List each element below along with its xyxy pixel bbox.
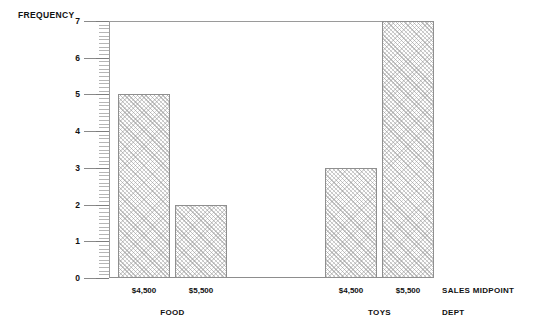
- y-axis-tick-dash: [84, 21, 96, 22]
- y-axis-minor-tick: [99, 39, 109, 40]
- y-axis-minor-tick: [99, 201, 109, 202]
- y-axis-major-tick: [95, 205, 109, 206]
- y-axis-minor-tick: [99, 105, 109, 106]
- y-tick-label: 6: [56, 53, 80, 62]
- y-axis-minor-tick: [99, 43, 109, 44]
- y-axis-minor-tick: [99, 102, 109, 103]
- x-axis-title: SALES MIDPOINT: [442, 287, 514, 295]
- y-axis-minor-tick: [99, 113, 109, 114]
- y-axis-major-tick: [95, 58, 109, 59]
- y-axis-minor-tick: [99, 249, 109, 250]
- y-axis-minor-tick: [99, 153, 109, 154]
- y-axis-minor-tick: [99, 142, 109, 143]
- y-axis-minor-tick: [99, 61, 109, 62]
- y-axis-minor-tick: [99, 186, 109, 187]
- x-tick-label: $5,500: [189, 287, 213, 295]
- y-tick-label: 1: [56, 237, 80, 246]
- y-axis-minor-tick: [99, 120, 109, 121]
- y-axis-minor-tick: [99, 238, 109, 239]
- y-axis-minor-tick: [99, 47, 109, 48]
- y-axis-major-tick: [95, 94, 109, 95]
- y-axis-minor-tick: [99, 194, 109, 195]
- y-axis-minor-tick: [99, 83, 109, 84]
- y-axis-minor-tick: [99, 179, 109, 180]
- y-axis-minor-tick: [99, 98, 109, 99]
- y-axis-minor-tick: [99, 234, 109, 235]
- y-axis-minor-tick: [99, 28, 109, 29]
- bars-layer: [110, 21, 432, 278]
- y-axis-minor-tick: [99, 124, 109, 125]
- y-axis-minor-tick: [99, 80, 109, 81]
- y-axis-minor-tick: [99, 65, 109, 66]
- y-tick-label: 0: [56, 274, 80, 283]
- y-axis-minor-tick: [99, 172, 109, 173]
- y-axis-major-tick: [95, 241, 109, 242]
- y-axis-minor-tick: [99, 146, 109, 147]
- y-axis-minor-tick: [99, 157, 109, 158]
- x-group-label: TOYS: [368, 309, 391, 317]
- y-axis-minor-tick: [99, 50, 109, 51]
- y-tick-label-group: 76543210: [48, 21, 80, 278]
- y-axis-minor-tick: [99, 175, 109, 176]
- y-axis-minor-tick: [99, 223, 109, 224]
- y-axis-minor-tick: [99, 227, 109, 228]
- y-axis-minor-tick: [99, 219, 109, 220]
- x-tick-label: $4,500: [132, 287, 156, 295]
- y-axis-major-tick: [95, 168, 109, 169]
- y-tick-label: 3: [56, 164, 80, 173]
- y-axis-minor-tick: [99, 116, 109, 117]
- y-axis-minor-tick: [99, 127, 109, 128]
- y-axis-minor-tick: [99, 36, 109, 37]
- y-axis-minor-tick: [99, 87, 109, 88]
- y-axis-minor-tick: [99, 109, 109, 110]
- y-axis-minor-tick: [99, 197, 109, 198]
- x-group-label: FOOD: [160, 309, 184, 317]
- y-axis-minor-tick: [99, 135, 109, 136]
- y-axis-major-tick: [95, 21, 109, 22]
- y-axis-minor-tick: [99, 245, 109, 246]
- y-axis-tick-dash: [84, 278, 96, 279]
- y-axis-minor-tick: [99, 69, 109, 70]
- y-tick-label: 7: [56, 17, 80, 26]
- y-axis-tick-dash: [84, 58, 96, 59]
- y-axis-tick-dash: [84, 205, 96, 206]
- y-axis-minor-tick: [99, 150, 109, 151]
- y-axis-tick-dash: [84, 94, 96, 95]
- y-axis-minor-tick: [99, 190, 109, 191]
- y-axis-minor-tick: [99, 256, 109, 257]
- y-axis-minor-tick: [99, 274, 109, 275]
- y-axis-minor-tick: [99, 230, 109, 231]
- x-axis-title-secondary: DEPT: [442, 309, 465, 317]
- x-tick-label: $4,500: [339, 287, 363, 295]
- y-axis-minor-tick: [99, 263, 109, 264]
- y-axis-minor-tick: [99, 208, 109, 209]
- bar-chart: FREQUENCY 76543210 $4,500$5,500$4,500$5,…: [0, 0, 541, 329]
- y-axis-minor-tick: [99, 216, 109, 217]
- y-axis-minor-tick: [99, 72, 109, 73]
- y-axis-minor-tick: [99, 161, 109, 162]
- y-axis-major-tick: [95, 278, 109, 279]
- y-axis-minor-tick: [99, 54, 109, 55]
- bar: [325, 168, 377, 278]
- x-tick-label: $5,500: [396, 287, 420, 295]
- y-tick-label: 2: [56, 200, 80, 209]
- y-axis-minor-tick: [99, 76, 109, 77]
- y-axis-minor-tick: [99, 267, 109, 268]
- y-axis-minor-tick: [99, 25, 109, 26]
- y-tick-label: 5: [56, 90, 80, 99]
- y-axis-minor-tick: [99, 252, 109, 253]
- y-axis-minor-tick: [99, 260, 109, 261]
- y-axis-tick-dash: [84, 241, 96, 242]
- y-tick-label: 4: [56, 127, 80, 136]
- y-axis-major-tick: [95, 131, 109, 132]
- y-axis-minor-tick: [99, 32, 109, 33]
- y-axis-minor-tick: [99, 164, 109, 165]
- bar: [118, 94, 170, 278]
- bar: [382, 21, 434, 278]
- bar: [175, 205, 227, 278]
- y-axis: [96, 21, 110, 278]
- y-axis-tick-dash: [84, 168, 96, 169]
- y-axis-minor-tick: [99, 271, 109, 272]
- y-axis-tick-dash: [84, 131, 96, 132]
- y-axis-minor-tick: [99, 138, 109, 139]
